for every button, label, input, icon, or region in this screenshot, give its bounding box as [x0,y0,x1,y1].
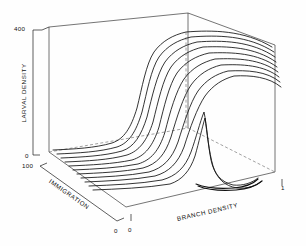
section-curve [89,112,258,186]
branch-density-axis-label: BRANCH DENSITY [176,201,238,222]
section-curve [77,65,279,174]
figure-3d-surface-plot: 400 0 LARVAL DENSITY 100 0 IMMIGRATION 0… [0,0,306,246]
surface-section-curves [53,31,281,190]
section-curve [65,47,276,162]
larval-density-axis-label: LARVAL DENSITY [20,63,27,122]
section-curve [81,71,280,178]
section-curve [69,53,277,166]
branch-axis-max-tick-label: 1 [281,184,285,191]
immigration-axis-far-tick-label: 100 [22,162,33,169]
surface-plot-canvas: 400 0 LARVAL DENSITY 100 0 IMMIGRATION 0… [0,0,306,246]
section-curve [93,118,262,190]
section-curve [61,41,275,158]
immigration-axis-near-tick-label: 0 [114,227,118,234]
immigration-axis-label: IMMIGRATION [48,177,91,210]
branch-axis-min-tick-label: 0 [128,226,132,233]
larval-axis-min-tick-label: 0 [25,152,29,159]
larval-axis-max-tick-label: 400 [14,25,25,32]
larval-density-axis [33,27,49,155]
